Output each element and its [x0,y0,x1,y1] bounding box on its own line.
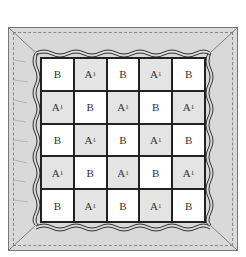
cell-A1: A1 [74,124,107,157]
cell-A1: A1 [139,124,172,157]
cell-B: B [41,124,74,157]
cell-B: B [172,58,205,91]
cell-A1: A1 [107,156,140,189]
cell-A1: A1 [139,189,172,222]
cell-A1: A1 [74,189,107,222]
cell-A1: A1 [41,91,74,124]
cell-A1: A1 [172,156,205,189]
cell-B: B [107,58,140,91]
cell-A1: A1 [139,58,172,91]
cell-A1: A1 [172,91,205,124]
cell-A1: A1 [107,91,140,124]
cell-A1: A1 [41,156,74,189]
cell-B: B [107,189,140,222]
cell-B: B [74,156,107,189]
cell-B: B [139,91,172,124]
checkerboard-grid: B A1 B A1 B A1 B A1 B A1 B A1 B A1 B A1 … [40,57,206,223]
cell-B: B [172,189,205,222]
cell-B: B [41,189,74,222]
cell-B: B [74,91,107,124]
cell-B: B [41,58,74,91]
cell-B: B [139,156,172,189]
cell-B: B [107,124,140,157]
cell-B: B [172,124,205,157]
cell-A1: A1 [74,58,107,91]
